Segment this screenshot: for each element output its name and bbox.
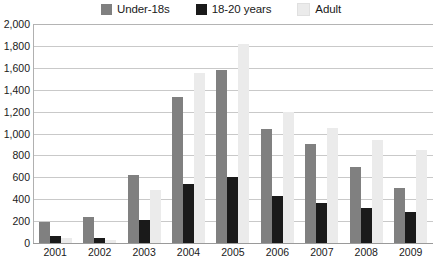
bar-group [344,24,388,243]
y-axis-tick-label: 2,000 [4,19,30,29]
bar-group [389,24,433,243]
y-axis-tick-label: 400 [12,194,30,204]
bar [139,220,150,243]
bar [261,129,272,243]
bar [238,44,249,243]
y-axis-tick-label: 600 [12,172,30,182]
bar [372,140,383,243]
x-axis-labels: 200120022003200420052006200720082009 [33,245,433,261]
y-axis-tick-label: 1,200 [4,107,30,117]
x-axis-tick-label: 2002 [77,245,121,261]
bar-chart: Under-18s 18-20 years Adult 020040060080… [0,0,442,276]
y-axis-labels: 02004006008001,0001,2001,4001,6001,8002,… [0,24,30,243]
legend-item-under-18s: Under-18s [101,4,170,15]
bar-group [122,24,166,243]
bar-group [33,24,77,243]
y-axis-tick-label: 1,800 [4,41,30,51]
bar [350,167,361,243]
bar [61,238,72,243]
bar [272,196,283,243]
legend-item-18-20-years: 18-20 years [196,4,272,15]
x-axis-tick-label: 2008 [344,245,388,261]
x-axis-tick-label: 2001 [33,245,77,261]
x-axis-tick-label: 2004 [166,245,210,261]
bar [150,190,161,243]
bar-groups [33,24,433,243]
legend-label: 18-20 years [212,4,272,15]
chart-caption [2,268,302,276]
legend-swatch-icon [297,3,310,16]
legend-swatch-icon [101,4,112,15]
bar [305,144,316,243]
x-axis-tick-label: 2009 [389,245,433,261]
y-axis-tick-label: 1,400 [4,85,30,95]
y-axis-tick-label: 0 [24,238,30,248]
x-axis-tick-label: 2005 [211,245,255,261]
bar [316,203,327,243]
bar [416,150,427,243]
bar-group [166,24,210,243]
bar [394,188,405,243]
bar [405,212,416,243]
y-axis-tick-label: 1,000 [4,129,30,139]
x-axis-tick-label: 2006 [255,245,299,261]
bar [39,222,50,243]
bar-group [255,24,299,243]
y-axis-tick-label: 200 [12,216,30,226]
bar-group [300,24,344,243]
bar-group [77,24,121,243]
bar [194,73,205,243]
chart-legend: Under-18s 18-20 years Adult [0,0,442,18]
x-axis-line [33,243,433,244]
x-axis-tick-label: 2003 [122,245,166,261]
y-axis-tick-label: 1,600 [4,63,30,73]
bar [94,238,105,243]
legend-item-adult: Adult [297,3,341,16]
bar [361,208,372,243]
bar [227,177,238,243]
bar [216,70,227,243]
bar [128,175,139,243]
legend-label: Under-18s [117,4,170,15]
legend-swatch-icon [196,4,207,15]
bar [105,240,116,243]
legend-label: Adult [315,4,341,15]
bar [327,128,338,243]
bar [283,112,294,243]
bar [83,217,94,243]
y-axis-tick-label: 800 [12,150,30,160]
bar-group [211,24,255,243]
bar [50,236,61,243]
x-axis-tick-label: 2007 [300,245,344,261]
bar [172,97,183,243]
bar [183,184,194,243]
